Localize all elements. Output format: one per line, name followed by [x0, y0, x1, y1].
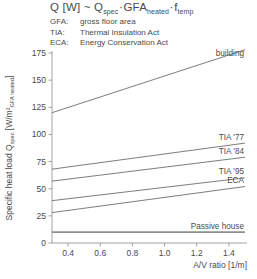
y-tick-label: 175 — [32, 48, 46, 58]
series-group — [52, 50, 245, 232]
series-label-old-building: building — [216, 49, 245, 58]
abbreviation-item: TIA:Thermal Insulation Act — [50, 28, 168, 39]
equation-mid: GFA — [123, 1, 147, 13]
series-label-eca: ECA — [227, 176, 244, 185]
series-line-eca — [52, 187, 245, 213]
y-tick-label: 75 — [37, 157, 47, 167]
y-tick-label: 100 — [32, 129, 46, 139]
equation-lhs-subscript: spec — [103, 8, 118, 15]
y-tick-label: 150 — [32, 75, 46, 85]
series-label-passive-house: Passive house — [191, 222, 245, 231]
x-axis-title: A/V ratio [1/m] — [193, 260, 247, 270]
y-axis-title-sub: spec — [9, 132, 15, 144]
figure-header: Q [W] ~ Qspec·GFAheated·ftemp GFA:gross … — [0, 0, 257, 50]
series-label-old-building: Old — [231, 46, 244, 48]
y-tick-label: 0 — [41, 238, 46, 248]
x-axis-ticks: 0.40.60.81.01.21.4 — [62, 243, 235, 258]
series-line-old-building — [52, 50, 245, 113]
equation-rhs-subscript: temp — [178, 8, 194, 15]
y-tick-label: 125 — [32, 102, 46, 112]
x-tick-label: 0.6 — [94, 248, 106, 258]
y-axis-title: Specific heat load Qspec [W/m²GFA heated… — [4, 76, 15, 221]
abbreviation-key: GFA: — [50, 17, 80, 28]
y-tick-label: 50 — [37, 184, 47, 194]
line-chart: 0255075100125150175 0.40.60.81.01.21.4 O… — [0, 46, 257, 279]
x-tick-label: 0.8 — [127, 248, 139, 258]
series-label-tia-77: TIA '77 — [219, 133, 245, 142]
figure: Q [W] ~ Qspec·GFAheated·ftemp GFA:gross … — [0, 0, 257, 279]
equation-lhs: Q [W] ~ Q — [50, 1, 103, 13]
x-tick-label: 1.4 — [223, 248, 235, 258]
y-axis-title-text: Specific heat load Qspec [W/m²GFA heated… — [4, 76, 15, 221]
equation-mid-subscript: heated — [147, 8, 169, 15]
abbreviation-item: GFA:gross floor area — [50, 17, 168, 28]
series-labels: OldbuildingTIA '77TIA '84TIA '95ECAPassi… — [191, 46, 245, 231]
series-label-tia-84: TIA '84 — [219, 147, 245, 156]
y-axis-title-main: Specific heat load Q — [4, 144, 14, 220]
series-label-tia-95: TIA '95 — [219, 167, 245, 176]
plot-area: 0255075100125150175 0.40.60.81.01.21.4 O… — [0, 46, 257, 279]
x-tick-label: 1.2 — [191, 248, 203, 258]
series-line-tia-95 — [52, 178, 245, 201]
abbreviation-list: GFA:gross floor area TIA:Thermal Insulat… — [50, 17, 168, 49]
y-axis-title-units-close: ] — [4, 76, 14, 78]
abbreviation-value: Thermal Insulation Act — [80, 28, 159, 39]
series-line-tia-77 — [52, 143, 245, 169]
y-axis-title-units-sub: GFA heated — [9, 78, 15, 108]
y-axis-title-units: [W/m² — [4, 107, 14, 132]
y-tick-label: 25 — [37, 211, 47, 221]
abbreviation-key: TIA: — [50, 28, 80, 39]
x-tick-label: 0.4 — [62, 248, 74, 258]
equation-title: Q [W] ~ Qspec·GFAheated·ftemp — [50, 1, 194, 13]
x-tick-label: 1.0 — [159, 248, 171, 258]
y-axis-ticks: 0255075100125150175 — [32, 48, 52, 248]
x-axis-title-text: A/V ratio [1/m] — [193, 260, 247, 270]
series-line-tia-84 — [52, 157, 245, 181]
abbreviation-value: gross floor area — [80, 17, 136, 28]
